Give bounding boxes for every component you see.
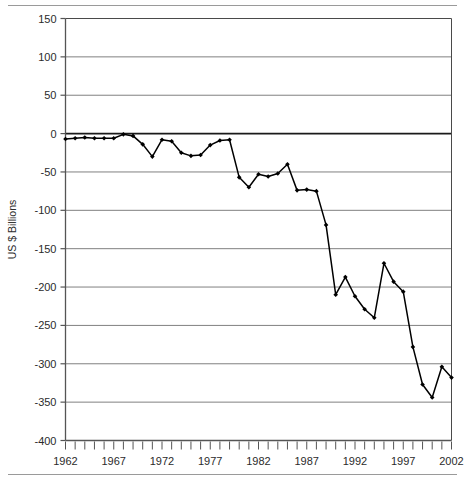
data-point-marker-1966 bbox=[102, 136, 107, 141]
data-point-marker-1979 bbox=[227, 137, 232, 142]
grid-lines bbox=[66, 19, 452, 441]
x-axis: 196219671972197719821987199219972002 bbox=[53, 441, 463, 467]
data-point-marker-1975 bbox=[189, 154, 194, 159]
data-point-marker-1983 bbox=[266, 174, 271, 179]
y-tick-label-50: 50 bbox=[44, 89, 56, 101]
chart-page: 150100500-50-100-150-200-250-300-350-400… bbox=[0, 0, 465, 481]
y-axis-title: US $ Billions bbox=[6, 200, 18, 260]
x-tick-label-1977: 1977 bbox=[198, 455, 222, 467]
y-tick-label--150: -150 bbox=[34, 243, 56, 255]
data-point-marker-1978 bbox=[218, 138, 223, 143]
x-tick-label-2002: 2002 bbox=[439, 455, 463, 467]
x-tick-label-1972: 1972 bbox=[150, 455, 174, 467]
y-tick-label--350: -350 bbox=[34, 396, 56, 408]
data-point-marker-1962 bbox=[63, 137, 68, 142]
y-tick-label--200: -200 bbox=[34, 281, 56, 293]
data-point-marker-1989 bbox=[324, 223, 329, 228]
x-tick-label-1967: 1967 bbox=[102, 455, 126, 467]
data-point-marker-1986 bbox=[295, 188, 300, 193]
chart-svg: 150100500-50-100-150-200-250-300-350-400… bbox=[0, 0, 465, 481]
x-tick-label-1962: 1962 bbox=[53, 455, 77, 467]
data-point-marker-1988 bbox=[314, 189, 319, 194]
y-tick-label-100: 100 bbox=[38, 51, 56, 63]
y-tick-label--100: -100 bbox=[34, 204, 56, 216]
data-point-marker-1998 bbox=[411, 345, 416, 350]
y-tick-label--250: -250 bbox=[34, 319, 56, 331]
y-tick-label-0: 0 bbox=[50, 128, 56, 140]
data-point-marker-1964 bbox=[83, 135, 88, 140]
y-axis: 150100500-50-100-150-200-250-300-350-400 bbox=[34, 13, 65, 447]
y-tick-label--50: -50 bbox=[41, 166, 57, 178]
data-point-marker-1967 bbox=[111, 136, 116, 141]
data-point-marker-1968 bbox=[121, 132, 126, 137]
data-point-marker-1987 bbox=[304, 187, 309, 192]
y-tick-label--400: -400 bbox=[34, 435, 56, 447]
x-tick-label-1992: 1992 bbox=[343, 455, 367, 467]
x-tick-label-1982: 1982 bbox=[246, 455, 270, 467]
y-axis-title-text: US $ Billions bbox=[6, 200, 18, 260]
x-tick-label-1997: 1997 bbox=[391, 455, 415, 467]
data-point-marker-1965 bbox=[92, 136, 97, 141]
data-point-marker-1963 bbox=[73, 136, 78, 141]
y-tick-label-150: 150 bbox=[38, 13, 56, 25]
y-tick-label--300: -300 bbox=[34, 358, 56, 370]
x-tick-label-1987: 1987 bbox=[295, 455, 319, 467]
line-chart: 150100500-50-100-150-200-250-300-350-400… bbox=[0, 0, 465, 481]
